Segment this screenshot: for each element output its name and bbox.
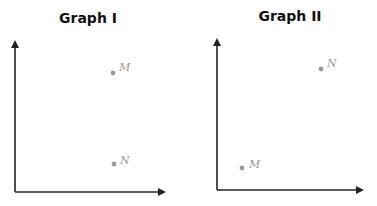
graphs-canvas: M N N M <box>0 0 377 206</box>
svg-text:N: N <box>326 57 337 70</box>
svg-text:N: N <box>119 154 130 167</box>
graph-2-point-n: N <box>319 57 337 71</box>
graph-1-point-n: N <box>112 154 130 167</box>
svg-text:M: M <box>118 61 131 74</box>
graph-1-point-m: M <box>111 61 131 75</box>
svg-text:M: M <box>248 158 261 171</box>
graph-1-axes <box>15 42 164 192</box>
graph-2-point-m: M <box>240 158 261 171</box>
graph-2-axes <box>217 40 362 190</box>
